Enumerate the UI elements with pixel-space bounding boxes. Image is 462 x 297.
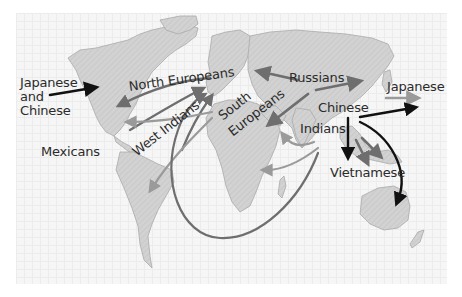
australia (360, 186, 410, 230)
label-chinese: Chinese (318, 101, 369, 114)
label-russians: Russians (289, 71, 344, 84)
new-zealand (410, 230, 424, 248)
label-japanese-and-chinese: Japanese and Chinese (20, 76, 77, 118)
label-japanese: Japanese (387, 80, 444, 93)
southeast-asia (340, 126, 402, 164)
label-indians: Indians (300, 122, 346, 135)
europe (206, 30, 252, 96)
madagascar (278, 176, 286, 198)
label-mexicans: Mexicans (41, 145, 100, 158)
label-vietnamese: Vietnamese (330, 166, 405, 179)
landmasses (68, 16, 424, 268)
